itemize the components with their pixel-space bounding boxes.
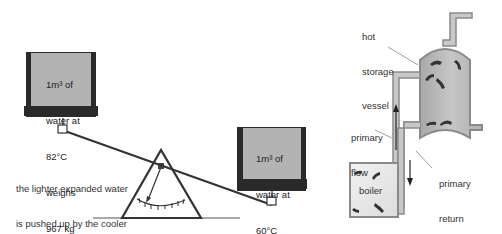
return-label-2: return	[439, 213, 471, 225]
vessel-label: hot storage vessel	[362, 8, 394, 123]
hot-line-1: 1m³ of	[46, 79, 80, 91]
primary-flow-pipe	[393, 72, 420, 163]
flow-label-1: primary	[351, 132, 383, 144]
fulcrum-triangle	[122, 150, 201, 218]
seesaw-caption: the lighter expanded water is pushed up …	[16, 160, 128, 234]
cold-line-1: 1m³ of	[256, 153, 290, 165]
caption-line-2: is pushed up by the cooler	[16, 218, 128, 230]
vessel-label-2: storage	[362, 66, 394, 78]
flow-label-2: flow	[351, 167, 383, 179]
cold-line-2: water at	[256, 189, 290, 201]
return-leader	[416, 151, 432, 168]
return-label-1: primary	[439, 178, 471, 190]
primary-return-label: primary return	[439, 155, 471, 234]
return-down-arrow	[407, 178, 413, 186]
outlet-pipe	[443, 13, 472, 46]
caption-line-1: the lighter expanded water	[16, 183, 128, 195]
hot-line-2: water at	[46, 115, 80, 127]
cold-water-text: 1m³ of water at 60°C weighs 998 kg	[256, 129, 290, 234]
vessel-label-1: hot	[362, 31, 394, 43]
cold-line-3: 60°C	[256, 225, 290, 234]
boiler-label: boiler	[359, 185, 382, 197]
primary-flow-label: primary flow	[351, 109, 383, 190]
